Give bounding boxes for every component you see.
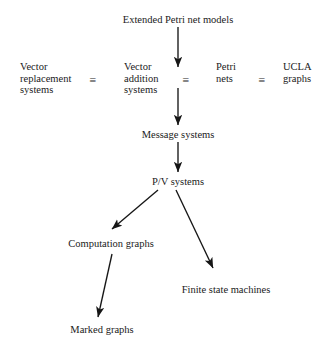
- node-message-systems: Message systems: [142, 129, 215, 141]
- node-pv-systems: P/V systems: [152, 176, 204, 188]
- node-finite-state-machines: Finite state machines: [182, 284, 271, 296]
- node-vector-addition-systems: Vector addition systems: [124, 61, 158, 96]
- equivalence-symbol-3: ≡: [259, 74, 266, 86]
- node-extended-petri-net-models: Extended Petri net models: [123, 14, 234, 26]
- arrow-computation-graphs-to-marked-graphs: [98, 254, 112, 317]
- arrow-pv-to-finite-state-machines: [176, 190, 213, 268]
- node-vector-replacement-systems: Vector replacement systems: [20, 61, 71, 96]
- node-petri-nets: Petri nets: [216, 61, 236, 84]
- arrow-layer: [0, 0, 335, 349]
- equivalence-symbol-1: ≡: [90, 74, 97, 86]
- equivalence-symbol-2: ≡: [183, 74, 190, 86]
- petri-net-hierarchy-diagram: Extended Petri net modelsVector replacem…: [0, 0, 335, 349]
- node-marked-graphs: Marked graphs: [70, 324, 133, 336]
- node-ucla-graphs: UCLA graphs: [283, 61, 312, 84]
- node-computation-graphs: Computation graphs: [68, 238, 153, 250]
- arrow-pv-to-computation-graphs: [112, 190, 158, 229]
